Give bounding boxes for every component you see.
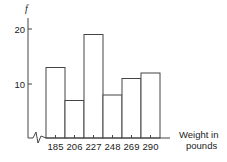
bars-group xyxy=(46,35,160,139)
x-tick-label: 269 xyxy=(124,141,140,152)
y-tick-label: 10 xyxy=(14,79,25,90)
x-tick-label: 185 xyxy=(48,141,64,152)
bar-227 xyxy=(84,35,103,139)
bar-185 xyxy=(46,68,65,139)
bar-290 xyxy=(141,73,160,138)
x-axis-label-line1: Weight in xyxy=(179,129,218,140)
bar-269 xyxy=(122,79,141,139)
bar-206 xyxy=(65,101,84,139)
bar-248 xyxy=(103,95,122,138)
y-ticks: 1020 xyxy=(14,24,32,90)
x-axis-label-line2: pounds xyxy=(186,140,217,151)
x-tick-label: 227 xyxy=(86,141,102,152)
y-axis-label: f xyxy=(25,3,29,14)
x-tick-label: 248 xyxy=(105,141,121,152)
x-tick-label: 206 xyxy=(67,141,83,152)
histogram-chart: f 1020 185206227248269290 Weight in poun… xyxy=(0,0,227,162)
y-tick-label: 20 xyxy=(14,24,25,35)
x-tick-label: 290 xyxy=(143,141,159,152)
